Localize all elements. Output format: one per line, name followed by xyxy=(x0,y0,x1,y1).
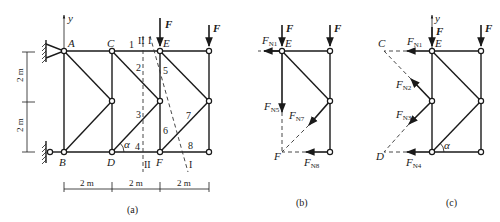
force-N7-arrow xyxy=(309,101,330,125)
load-label-b-right: F xyxy=(333,22,342,34)
force-c-N4-label: FN4 xyxy=(405,156,422,170)
horizontal-dim-1: 2 m xyxy=(80,178,94,188)
node-B-label: B xyxy=(59,156,66,168)
load-label-right: F xyxy=(212,22,221,34)
member-2-label: 2 xyxy=(136,62,141,73)
horizontal-dimensions: 2 m 2 m 2 m xyxy=(64,178,209,192)
force-N7-label: FN7 xyxy=(288,109,305,123)
section-II-label-top: II xyxy=(138,35,145,46)
force-N5-label: FN5 xyxy=(263,100,280,114)
pin-support-A xyxy=(42,40,64,63)
force-c-N1-label: FN1 xyxy=(406,35,423,49)
y-axis-label: y xyxy=(67,12,73,24)
vertical-dimensions: 2 m 2 m xyxy=(15,52,35,152)
node-A-label: A xyxy=(67,37,75,49)
panel-c: y FN1 FN2 FN3 FN4 α F F xyxy=(375,12,493,209)
panel-a: y II I II I 1 2 3 4 5 6 xyxy=(15,12,221,216)
force-N1-label: FN1 xyxy=(261,34,278,48)
node-E-label-b: E xyxy=(284,37,292,49)
member-4-label: 4 xyxy=(135,141,140,152)
load-label-b-E: F xyxy=(285,22,294,34)
force-c-N2-arrow xyxy=(411,79,432,101)
node-E-label: E xyxy=(162,37,170,49)
horizontal-dim-2: 2 m xyxy=(129,178,143,188)
member-3-label: 3 xyxy=(136,109,141,120)
angle-alpha-label-c: α xyxy=(444,139,450,151)
member-6-label: 6 xyxy=(163,125,168,136)
caption-c: (c) xyxy=(446,197,457,209)
point-C-label-c: C xyxy=(378,37,386,49)
load-label-c-right: F xyxy=(484,22,493,34)
force-N8-label: FN8 xyxy=(303,156,320,170)
truss-figure: y II I II I 1 2 3 4 5 6 xyxy=(0,0,500,222)
member-1-label: 1 xyxy=(129,39,134,50)
y-axis-label-c: y xyxy=(434,12,440,24)
point-D-label-c: D xyxy=(375,150,384,162)
section-II-label-bottom: II xyxy=(144,159,151,170)
node-C-label: C xyxy=(107,37,115,49)
horizontal-dim-3: 2 m xyxy=(177,178,191,188)
caption-a: (a) xyxy=(127,204,138,216)
node-E-label-c: E xyxy=(434,37,442,49)
vertical-dim-upper: 2 m xyxy=(15,68,25,82)
node-D-label: D xyxy=(106,156,115,168)
caption-b: (b) xyxy=(296,197,308,209)
force-c-N3-label: FN3 xyxy=(395,108,412,122)
section-I-label-top: I xyxy=(148,35,151,46)
member-8-label: 8 xyxy=(188,140,193,151)
section-I-label-bottom: I xyxy=(189,159,192,170)
load-label-c-E: F xyxy=(435,25,444,37)
member-7-label: 7 xyxy=(186,110,191,121)
node-F-label: F xyxy=(155,156,163,168)
angle-alpha-label: α xyxy=(124,138,130,150)
member-5-label: 5 xyxy=(163,65,168,76)
load-label-E: F xyxy=(164,18,173,30)
point-F-label-b: F xyxy=(273,150,281,162)
panel-b: FN1 FN5 FN7 FN8 F F E F (b) xyxy=(258,22,342,209)
force-c-N3-arrow xyxy=(409,101,432,124)
force-c-N2-label: FN2 xyxy=(395,78,412,92)
vertical-dim-lower: 2 m xyxy=(15,118,25,132)
